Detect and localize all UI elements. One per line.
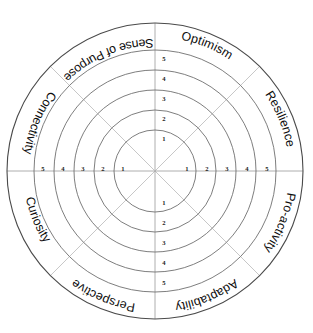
axis-tick-right-5: 5 — [265, 165, 269, 172]
sector-label-connectivity: Connectivity — [21, 89, 59, 156]
axis-tick-right-1: 1 — [185, 165, 188, 172]
axis-tick-top-1: 1 — [162, 135, 165, 142]
sector-label-text-optimism: Optimism — [180, 29, 235, 62]
axis-tick-bottom-4: 4 — [162, 259, 166, 266]
axis-tick-bottom-2: 2 — [162, 219, 166, 226]
sector-label-perspective: Perspective — [69, 276, 136, 314]
spokes-group — [7, 23, 303, 319]
axis-tick-bottom-3: 3 — [162, 239, 166, 246]
spoke-line — [50, 66, 155, 171]
axis-tick-left-3: 3 — [81, 165, 85, 172]
sector-label-resilience: Resilience — [262, 88, 297, 148]
axis-tick-bottom-5: 5 — [162, 279, 166, 286]
axis-tick-left-4: 4 — [61, 165, 65, 172]
sector-label-text-adaptability: Adaptability — [174, 276, 241, 314]
axis-tick-right-2: 2 — [205, 165, 209, 172]
wheel-canvas: 12345123451234512345 OptimismResilienceP… — [0, 0, 313, 333]
axis-tick-top-2: 2 — [162, 115, 166, 122]
axis-tick-top-5: 5 — [162, 55, 166, 62]
axis-tick-top-4: 4 — [162, 75, 166, 82]
sector-label-text-perspective: Perspective — [69, 276, 136, 314]
sector-label-optimism: Optimism — [180, 29, 235, 62]
sector-label-text-pro-activity: Pro-activity — [261, 192, 298, 257]
spoke-line — [155, 171, 260, 276]
axis-tick-left-5: 5 — [41, 165, 45, 172]
resilience-wheel-chart: 12345123451234512345 OptimismResilienceP… — [0, 0, 313, 333]
sector-label-text-resilience: Resilience — [262, 88, 297, 148]
sector-label-adaptability: Adaptability — [174, 276, 241, 314]
axis-tick-right-3: 3 — [225, 165, 229, 172]
axis-tick-top-3: 3 — [162, 95, 166, 102]
sector-label-text-connectivity: Connectivity — [21, 89, 59, 156]
axis-tick-bottom-1: 1 — [162, 199, 165, 206]
axis-tick-left-2: 2 — [101, 165, 105, 172]
axis-tick-left-1: 1 — [121, 165, 124, 172]
spoke-line — [155, 66, 260, 171]
sector-label-pro-activity: Pro-activity — [261, 192, 298, 257]
spoke-line — [50, 171, 155, 276]
axis-tick-right-4: 4 — [245, 165, 249, 172]
